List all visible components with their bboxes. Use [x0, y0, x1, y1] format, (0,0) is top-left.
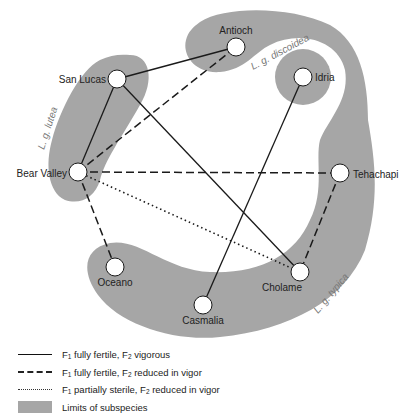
node-casmalia: [194, 296, 212, 314]
node-san-lucas: [108, 70, 126, 88]
label-oceano: Oceano: [97, 277, 132, 288]
label-cholame: Cholame: [262, 282, 302, 293]
node-bear-valley: [69, 163, 87, 181]
node-tehachapi: [331, 164, 349, 182]
edge-bearvalley-tehachapi: [78, 172, 340, 173]
node-antioch: [227, 38, 245, 56]
label-san-lucas: San Lucas: [59, 74, 106, 85]
legend-row-dashed: F1 fully fertile, F2 reduced in vigor: [18, 364, 220, 382]
node-idria: [294, 68, 312, 86]
region-fill-swatch: [18, 401, 52, 413]
edge-sanlucas-cholame: [117, 79, 300, 272]
legend: F1 fully fertile, F2 vigorous F1 fully f…: [18, 346, 220, 414]
dotted-line-swatch: [18, 389, 52, 390]
node-oceano: [106, 258, 124, 276]
legend-text: F1 fully fertile, F2 vigorous: [62, 349, 170, 360]
label-tehachapi: Tehachapi: [353, 169, 399, 180]
label-bear-valley: Bear Valley: [17, 168, 67, 179]
node-cholame: [291, 263, 309, 281]
crossing-diagram: L. g. lutea L. g. discoidea L. g. typica…: [0, 0, 413, 340]
label-idria: Idria: [315, 72, 335, 83]
legend-text: F1 fully fertile, F2 reduced in vigor: [62, 367, 202, 378]
solid-line-swatch: [18, 354, 52, 355]
legend-row-fill: Limits of subspecies: [18, 399, 220, 414]
label-casmalia: Casmalia: [182, 315, 224, 326]
legend-row-solid: F1 fully fertile, F2 vigorous: [18, 346, 220, 364]
dashed-line-swatch: [18, 371, 52, 373]
subspecies-regions: [48, 10, 374, 338]
legend-text: Limits of subspecies: [62, 402, 148, 413]
legend-text: F1 partially sterile, F2 reduced in vigo…: [62, 384, 220, 395]
legend-row-dotted: F1 partially sterile, F2 reduced in vigo…: [18, 381, 220, 399]
label-antioch: Antioch: [219, 25, 252, 36]
